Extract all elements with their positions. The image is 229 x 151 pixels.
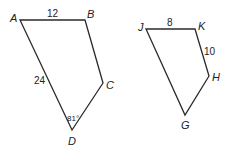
quadrilateral-jkhg xyxy=(146,29,209,115)
vertex-label-j: J xyxy=(137,21,144,33)
vertex-label-b: B xyxy=(87,8,94,20)
side-length-kh: 10 xyxy=(204,46,216,57)
side-length-jk: 8 xyxy=(167,17,173,28)
vertex-label-k: K xyxy=(198,20,206,32)
angle-measure-d: 81° xyxy=(67,114,79,123)
vertex-label-d: D xyxy=(68,135,76,147)
vertex-label-h: H xyxy=(212,71,220,83)
vertex-label-g: G xyxy=(181,119,190,131)
side-length-ad: 24 xyxy=(34,75,46,86)
quadrilateral-abcd xyxy=(20,20,103,130)
side-length-ab: 12 xyxy=(47,8,59,19)
vertex-label-a: A xyxy=(9,12,17,24)
vertex-label-c: C xyxy=(106,79,114,91)
diagram-canvas: A B C D 12 24 81° J K H G 8 10 xyxy=(0,0,229,151)
